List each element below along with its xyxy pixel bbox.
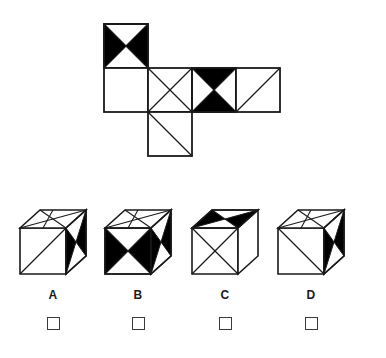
option-c-cube[interactable] [192,210,258,274]
option-a-label: A [41,288,65,302]
option-c-label: C [213,288,237,302]
puzzle-root: A B C D [0,0,386,358]
option-d-label: D [299,288,323,302]
answer-checkbox-b[interactable] [132,317,145,330]
answer-checkbox-c[interactable] [219,317,232,330]
option-a-cube[interactable] [20,210,86,274]
options-svg [0,0,386,358]
option-b-label: B [126,288,150,302]
answer-checkbox-a[interactable] [47,317,60,330]
answer-checkbox-d[interactable] [305,317,318,330]
option-b-cube[interactable] [105,210,171,274]
option-d-cube[interactable] [278,210,344,274]
